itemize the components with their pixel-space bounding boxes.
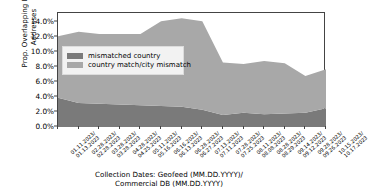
y-tick-label: 14.0% xyxy=(31,17,54,26)
chart-legend: mismatched countrycountry match/city mis… xyxy=(62,46,184,75)
y-tick-label: 2.0% xyxy=(35,107,54,116)
y-tick-label: 8.0% xyxy=(35,62,54,71)
x-axis-tick-labels: 01.11.2023/01.13.202302.28.2023/02.28.20… xyxy=(0,126,338,168)
y-tick-label: 4.0% xyxy=(35,92,54,101)
legend-item-2: country match/city mismatch xyxy=(67,61,179,69)
x-axis-title: Collection Dates: Geofeed (MM.DD.YYYY)/ … xyxy=(0,170,338,188)
y-tick-label: 12.0% xyxy=(31,32,54,41)
legend-item-1: mismatched country xyxy=(67,52,179,60)
x-axis-title-line1: Collection Dates: Geofeed (MM.DD.YYYY)/ xyxy=(0,170,338,179)
y-tick-label: 6.0% xyxy=(35,77,54,86)
legend-swatch-icon xyxy=(67,62,83,68)
y-tick-label: 10.0% xyxy=(31,47,54,56)
legend-label: country match/city mismatch xyxy=(88,61,191,69)
legend-label: mismatched country xyxy=(88,52,160,60)
legend-swatch-icon xyxy=(67,53,83,59)
x-axis-title-line2: Commercial DB (MM.DD.YYYY) xyxy=(0,179,338,188)
y-axis-ticks: 0.0%2.0%4.0%6.0%8.0%10.0%12.0%14.0% xyxy=(0,12,54,126)
